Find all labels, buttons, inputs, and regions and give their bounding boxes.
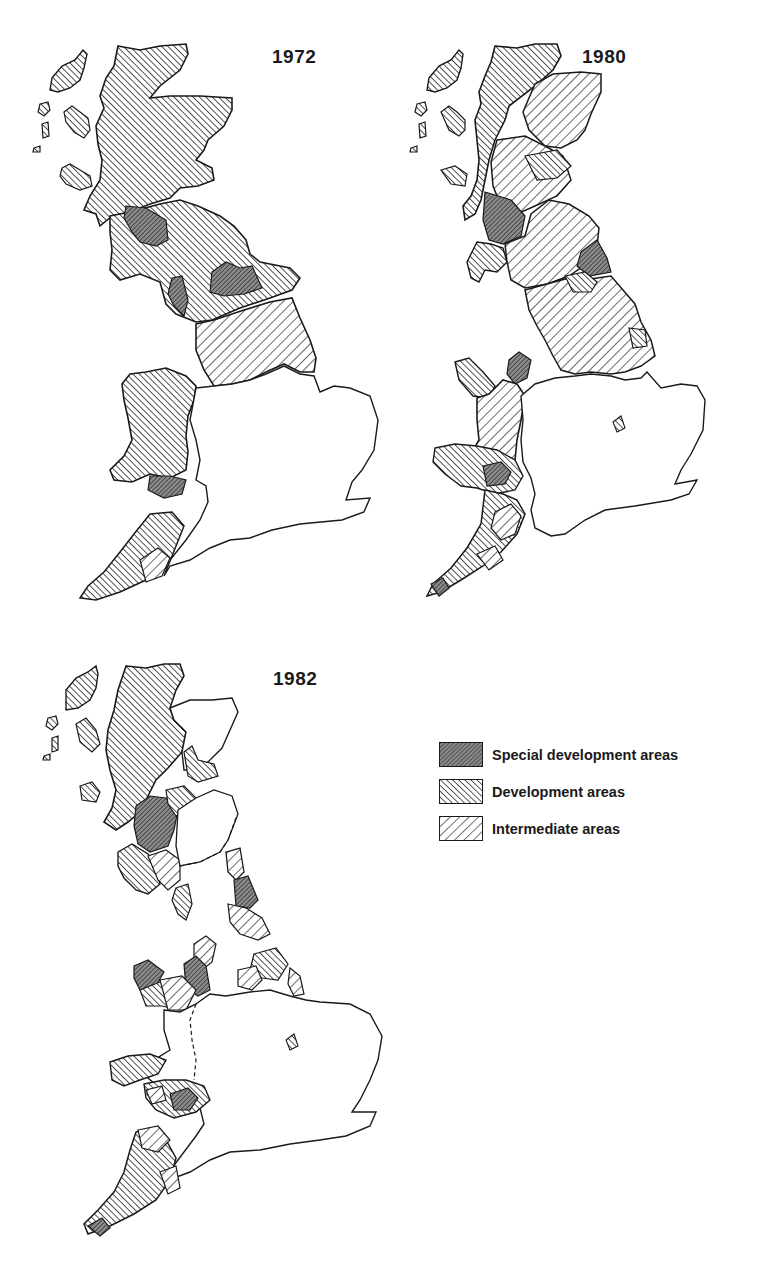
map-panel-1980: 1980 xyxy=(385,0,769,610)
legend-item-intermediate: Intermediate areas xyxy=(439,810,759,847)
legend-item-special-development: Special development areas xyxy=(439,736,759,773)
legend-label: Intermediate areas xyxy=(492,821,620,837)
region-mull xyxy=(60,164,92,190)
region-wales xyxy=(110,368,196,482)
legend-label: Special development areas xyxy=(492,747,678,763)
map-1980 xyxy=(385,0,769,610)
legend-label: Development areas xyxy=(492,784,625,800)
region-outer-hebrides xyxy=(66,666,98,710)
year-label-1980: 1980 xyxy=(582,46,626,68)
region-outer-hebrides xyxy=(427,50,463,92)
region-north-wales xyxy=(455,358,495,398)
region-islands-west xyxy=(410,102,467,186)
swatch-special-development xyxy=(439,742,483,767)
legend: Special development areas Development ar… xyxy=(439,736,759,847)
swatch-intermediate xyxy=(439,816,483,841)
legend-item-development: Development areas xyxy=(439,773,759,810)
region-england-unassisted xyxy=(521,372,705,536)
map-1982 xyxy=(0,620,400,1266)
region-yorkshire-coast xyxy=(228,904,270,940)
region-skye xyxy=(64,106,90,138)
map-1972 xyxy=(0,0,385,610)
map-panel-1972: 1972 xyxy=(0,0,385,610)
region-south-wales-special xyxy=(148,476,186,498)
region-north-east-special xyxy=(234,876,258,908)
region-cumbria-dev xyxy=(172,884,192,920)
year-label-1972: 1972 xyxy=(272,46,316,68)
swatch-development xyxy=(439,779,483,804)
region-sw-scotland-dev xyxy=(467,242,507,282)
region-north-east-intermediate xyxy=(226,848,244,880)
map-panel-1982: 1982 xyxy=(0,620,400,1266)
region-merseyside-special xyxy=(507,352,531,384)
region-islands-west xyxy=(33,102,50,152)
region-highlands xyxy=(84,44,232,226)
region-outer-hebrides xyxy=(50,50,87,92)
region-ne-scotland-intermediate xyxy=(523,72,601,148)
region-islands-west xyxy=(43,716,100,802)
year-label-1982: 1982 xyxy=(273,668,317,690)
region-england-unassisted xyxy=(164,366,378,576)
